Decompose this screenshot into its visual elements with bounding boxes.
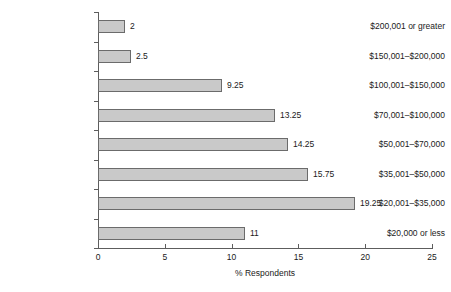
- y-tick-0: [94, 12, 99, 13]
- y-tick-2: [94, 71, 99, 72]
- bar-value-label-1: 2.5: [136, 51, 148, 61]
- x-axis-title: % Respondents: [98, 268, 432, 278]
- bar-value-label-5: 15.75: [313, 169, 334, 179]
- bar-6[interactable]: [98, 197, 355, 210]
- y-tick-1: [94, 42, 99, 43]
- x-tick-20: [365, 244, 366, 249]
- x-tick-10: [232, 244, 233, 249]
- y-tick-6: [94, 189, 99, 190]
- x-tick-25: [432, 244, 433, 249]
- x-tick-label-25: 25: [417, 252, 447, 262]
- bar-4[interactable]: [98, 138, 288, 151]
- bar-value-label-2: 9.25: [227, 80, 244, 90]
- x-tick-5: [165, 244, 166, 249]
- bar-7[interactable]: [98, 227, 245, 240]
- bar-2[interactable]: [98, 79, 222, 92]
- bar-value-label-7: 11: [250, 228, 259, 238]
- y-tick-8: [94, 248, 99, 249]
- x-tick-label-20: 20: [350, 252, 380, 262]
- bar-5[interactable]: [98, 168, 308, 181]
- category-label-5: $35,001–$50,000: [359, 169, 451, 179]
- y-tick-3: [94, 101, 99, 102]
- x-tick-label-5: 5: [150, 252, 180, 262]
- category-label-1: $150,001–$200,000: [359, 51, 451, 61]
- bar-value-label-6: 19.25: [360, 198, 381, 208]
- bar-1[interactable]: [98, 50, 131, 63]
- x-axis-line: [98, 248, 432, 249]
- bar-chart: 0510152025 $200,001 or greater$150,001–$…: [0, 0, 451, 292]
- category-label-0: $200,001 or greater: [359, 21, 451, 31]
- category-label-4: $50,001–$70,000: [359, 139, 451, 149]
- category-label-7: $20,000 or less: [359, 228, 451, 238]
- x-tick-15: [298, 244, 299, 249]
- category-label-3: $70,001–$100,000: [359, 110, 451, 120]
- y-tick-4: [94, 130, 99, 131]
- bar-0[interactable]: [98, 20, 125, 33]
- x-tick-label-10: 10: [217, 252, 247, 262]
- bar-3[interactable]: [98, 109, 275, 122]
- y-tick-7: [94, 219, 99, 220]
- bar-value-label-4: 14.25: [293, 139, 314, 149]
- x-tick-label-0: 0: [83, 252, 113, 262]
- bar-value-label-3: 13.25: [280, 110, 301, 120]
- bar-value-label-0: 2: [130, 21, 135, 31]
- y-tick-5: [94, 160, 99, 161]
- category-label-2: $100,001–$150,000: [359, 80, 451, 90]
- x-tick-label-15: 15: [283, 252, 313, 262]
